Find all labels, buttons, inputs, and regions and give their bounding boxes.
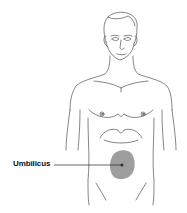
torso-diagram	[0, 0, 187, 213]
umbilicus-label: Umbilicus	[13, 159, 50, 168]
chest	[89, 110, 153, 143]
head	[104, 12, 137, 60]
neck-shoulders	[70, 56, 172, 110]
